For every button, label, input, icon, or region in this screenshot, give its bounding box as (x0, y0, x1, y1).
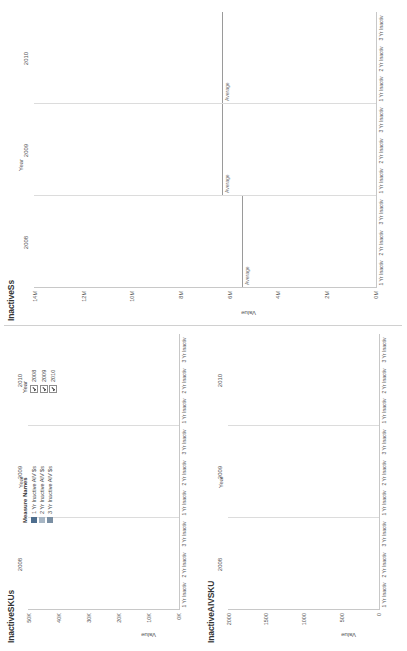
chart-panel-inactive-ss: InactiveSs Value Year 0M 2M 4M 6M 8M 10M… (6, 5, 402, 321)
y-tick-10m: 10M (129, 291, 135, 315)
year-group-2010: Average (34, 12, 376, 103)
y-tick-0m: 0M (373, 291, 379, 315)
cat-label-2009-2yr: 2 Yr Inactiv (382, 458, 388, 488)
cat-label-2008-2yr: 2 Yr Inactiv (182, 550, 188, 580)
x-axis-labels-inactive-skus: 1 Yr Inactiv 2 Yr Inactiv 3 Yr Inactiv 1… (182, 334, 196, 610)
cat-label-2008-1yr: 1 Yr Inactiv (182, 580, 188, 610)
cat-label-2010-1yr: 1 Yr Inactiv (379, 74, 385, 104)
cat-label-2009-2yr: 2 Yr Inactiv (182, 458, 188, 488)
y-tick-2m: 2M (324, 291, 330, 315)
average-reference-label-2010: Average (224, 82, 230, 101)
year-labels-inactive-aiv-sku: 2008 2009 2010 (217, 334, 227, 610)
cat-label-2010-1yr: 1 Yr Inactiv (182, 396, 188, 426)
y-tick-6m: 6M (227, 291, 233, 315)
checkbox-icon[interactable] (40, 385, 48, 393)
legend-item-3yr[interactable]: 3 Yr Inactive AIV $s (47, 445, 53, 523)
average-reference-line-2010 (222, 12, 223, 103)
y-tick-1500: 1500 (263, 613, 269, 635)
cat-label-2009-1yr: 1 Yr Inactiv (382, 488, 388, 518)
checkbox-icon[interactable] (30, 385, 38, 393)
year-label-2008: 2008 (217, 519, 223, 610)
y-axis-title-inactive-ss: Value (241, 310, 256, 316)
year-group-2009 (228, 426, 379, 517)
y-tick-12m: 12M (81, 291, 87, 315)
cat-label-2010-2yr: 2 Yr Inactiv (182, 366, 188, 396)
legend-item-2yr[interactable]: 2 Yr Inactive AIV $s (39, 445, 45, 523)
legend-label-1yr: 1 Yr Inactive AIV $s (31, 466, 37, 514)
cat-label-2009-3yr: 3 Yr Inactiv (182, 427, 188, 457)
y-tick-8m: 8M (178, 291, 184, 315)
cat-label-2009-1yr: 1 Yr Inactiv (182, 488, 188, 518)
legend-title: Measure Names (22, 445, 28, 523)
year-group-2009: Average (34, 104, 376, 195)
cat-label-2010-2yr: 2 Yr Inactiv (379, 44, 385, 74)
year-filter-label-2008: 2008 (31, 370, 37, 382)
year-group-2008 (228, 518, 379, 609)
year-group-2010 (228, 334, 379, 425)
checkbox-icon[interactable] (49, 385, 57, 393)
year-filter-option-2009[interactable]: 2009 (40, 347, 48, 393)
x-axis-labels-inactive-ss: 1 Yr Inactiv 2 Yr Inactiv 3 Yr Inactiv 1… (379, 12, 393, 288)
chart-title-inactive-aiv-sku: InactiveAIVSKU (206, 329, 216, 643)
y-tick-0: 0 (376, 613, 382, 635)
plot-area-inactive-ss: Average (34, 12, 377, 288)
year-filter: Year 2008 2009 2010 (22, 347, 59, 393)
cat-label-2009-3yr: 3 Yr Inactiv (382, 427, 388, 457)
cat-label-2010-2yr: 2 Yr Inactiv (382, 366, 388, 396)
y-tick-500: 500 (339, 613, 345, 635)
year-group-2008: Average (34, 196, 376, 287)
year-filter-label-2009: 2009 (41, 370, 47, 382)
year-filter-label-2010: 2010 (50, 370, 56, 382)
year-filter-title: Year (22, 347, 28, 393)
cat-label-2010-3yr: 3 Yr Inactiv (379, 13, 385, 43)
year-group-2008 (28, 518, 179, 609)
y-tick-30k: 30K (86, 613, 92, 635)
cat-label-2009-3yr: 3 Yr Inactiv (379, 105, 385, 135)
panel-divider (4, 325, 402, 326)
year-filter-option-2008[interactable]: 2008 (30, 347, 38, 393)
year-labels-inactive-ss: 2008 2009 2010 (23, 12, 33, 288)
y-tick-0k: 0K (176, 613, 182, 635)
dashboard: InactiveSKUs Value Year 0K 10K 20K 30K 4… (0, 0, 407, 651)
average-reference-label-2009: Average (224, 174, 230, 193)
cat-label-2008-3yr: 3 Yr Inactiv (382, 519, 388, 549)
y-tick-1000: 1000 (301, 613, 307, 635)
legend-label-2yr: 2 Yr Inactive AIV $s (39, 466, 45, 514)
y-tick-10k: 10K (146, 613, 152, 635)
cat-label-2010-3yr: 3 Yr Inactiv (382, 335, 388, 365)
legend-swatch-icon (31, 517, 37, 523)
year-filter-option-2010[interactable]: 2010 (49, 347, 57, 393)
cat-label-2009-2yr: 2 Yr Inactiv (379, 136, 385, 166)
y-tick-40k: 40K (56, 613, 62, 635)
cat-label-2008-2yr: 2 Yr Inactiv (379, 228, 385, 258)
year-label-2008: 2008 (23, 197, 29, 288)
year-label-2010: 2010 (217, 335, 223, 426)
average-reference-line-2008 (242, 196, 243, 287)
cat-label-2008-3yr: 3 Yr Inactiv (379, 197, 385, 227)
legend-item-1yr[interactable]: 1 Yr Inactive AIV $s (31, 445, 37, 523)
y-tick-4m: 4M (275, 291, 281, 315)
legend-swatch-icon (39, 517, 45, 523)
chart-title-inactive-skus: InactiveSKUs (6, 329, 16, 643)
cat-label-2008-2yr: 2 Yr Inactiv (382, 550, 388, 580)
dashboard-rotation-wrapper: InactiveSKUs Value Year 0K 10K 20K 30K 4… (0, 0, 407, 651)
y-tick-14m: 14M (32, 291, 38, 315)
x-axis-labels-inactive-aiv-sku: 1 Yr Inactiv 2 Yr Inactiv 3 Yr Inactiv 1… (382, 334, 396, 610)
cat-label-2008-3yr: 3 Yr Inactiv (182, 519, 188, 549)
cat-label-2008-1yr: 1 Yr Inactiv (382, 580, 388, 610)
year-label-2008: 2008 (17, 519, 23, 610)
legend-label-3yr: 3 Yr Inactive AIV $s (47, 466, 53, 514)
y-tick-2000: 2000 (226, 613, 232, 635)
legend-measure-names: Measure Names 1 Yr Inactive AIV $s 2 Yr … (22, 445, 55, 523)
year-label-2009: 2009 (23, 105, 29, 196)
cat-label-2008-1yr: 1 Yr Inactiv (379, 258, 385, 288)
chart-panel-inactive-aiv-sku: InactiveAIVSKU Value Year 0 500 1000 150… (206, 329, 402, 643)
legend-swatch-icon (47, 517, 53, 523)
average-reference-line-2009 (222, 104, 223, 195)
cat-label-2010-1yr: 1 Yr Inactiv (382, 396, 388, 426)
y-tick-20k: 20K (116, 613, 122, 635)
cat-label-2010-3yr: 3 Yr Inactiv (182, 335, 188, 365)
year-label-2009: 2009 (217, 427, 223, 518)
average-reference-label-2008: Average (244, 266, 250, 285)
plot-area-inactive-aiv-sku (228, 334, 380, 610)
